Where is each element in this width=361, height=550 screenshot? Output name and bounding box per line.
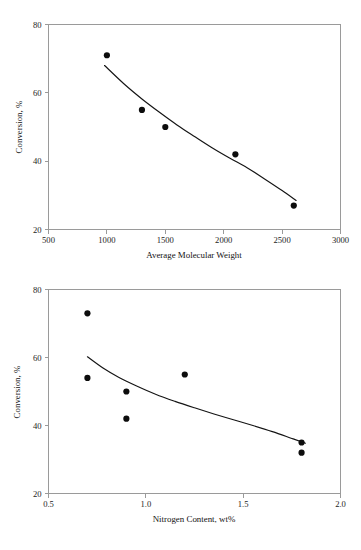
x-axis-title-1: Average Molecular Weight <box>146 250 242 260</box>
y-axis-title-1: Conversion, % <box>14 100 24 153</box>
y-axis-tick-labels-2: 20406080 <box>33 285 42 499</box>
y-tick-label-1-0: 20 <box>33 225 42 235</box>
x-tick-label-2-2: 1.5 <box>238 499 249 509</box>
data-point-1-4 <box>291 202 297 208</box>
data-point-2-2 <box>123 388 129 394</box>
x-axis-title-2: Nitrogen Content, wt% <box>153 514 236 524</box>
x-tick-label-2-3: 2.0 <box>335 499 346 509</box>
data-point-2-1 <box>84 375 90 381</box>
plot-frame-1 <box>49 25 341 230</box>
data-point-2-5 <box>298 439 304 445</box>
data-point-2-3 <box>123 416 129 422</box>
data-point-1-3 <box>232 151 238 157</box>
y-tick-label-2-1: 40 <box>33 421 42 431</box>
x-axis-ticks-1 <box>49 230 341 234</box>
y-axis-ticks-2 <box>45 290 49 494</box>
y-tick-label-1-2: 60 <box>33 88 42 98</box>
axis-box-1 <box>49 25 341 230</box>
x-tick-label-1-2: 1500 <box>157 235 174 245</box>
data-point-2-4 <box>182 371 188 377</box>
x-tick-label-1-0: 500 <box>42 235 55 245</box>
x-tick-label-1-5: 3000 <box>332 235 349 245</box>
y-axis-title-2: Conversion, % <box>12 365 22 418</box>
data-point-2-6 <box>298 450 304 456</box>
fitted-trend-line-2 <box>87 357 305 443</box>
x-tick-label-2-0: 0.5 <box>43 499 54 509</box>
data-point-1-1 <box>139 107 145 113</box>
x-axis-ticks-2 <box>49 494 341 498</box>
data-point-group-1 <box>104 52 297 209</box>
y-tick-label-1-1: 40 <box>33 156 42 166</box>
data-point-1-0 <box>104 52 110 58</box>
data-point-group-2 <box>84 310 304 456</box>
plot-frame-2 <box>49 290 341 494</box>
fitted-trend-line-1 <box>105 66 297 201</box>
chart-nitrogen-content: 0.51.01.52.0 20406080 Nitrogen Content, … <box>0 275 361 550</box>
x-tick-label-1-3: 2000 <box>215 235 232 245</box>
y-tick-label-2-0: 20 <box>33 489 42 499</box>
x-axis-tick-labels-2: 0.51.01.52.0 <box>43 499 346 509</box>
y-tick-label-2-3: 80 <box>33 285 42 295</box>
y-axis-ticks-1 <box>45 25 49 230</box>
y-tick-label-2-2: 60 <box>33 353 42 363</box>
x-tick-label-1-1: 1000 <box>98 235 115 245</box>
data-point-2-0 <box>84 310 90 316</box>
x-tick-label-2-1: 1.0 <box>140 499 151 509</box>
figure-page: 50010001500200025003000 20406080 Average… <box>0 0 361 550</box>
chart-molecular-weight-canvas: 50010001500200025003000 20406080 Average… <box>0 0 361 275</box>
y-axis-tick-labels-1: 20406080 <box>33 20 42 235</box>
data-point-1-2 <box>162 124 168 130</box>
x-axis-tick-labels-1: 50010001500200025003000 <box>42 235 349 245</box>
y-tick-label-1-3: 80 <box>33 20 42 30</box>
axis-box-2 <box>49 290 341 494</box>
x-tick-label-1-4: 2500 <box>274 235 291 245</box>
chart-nitrogen-content-canvas: 0.51.01.52.0 20406080 Nitrogen Content, … <box>0 275 361 550</box>
chart-molecular-weight: 50010001500200025003000 20406080 Average… <box>0 0 361 275</box>
